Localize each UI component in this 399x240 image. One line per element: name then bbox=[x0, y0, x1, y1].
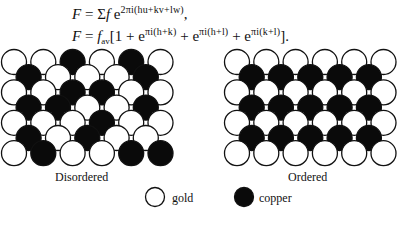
gold-atom bbox=[371, 141, 396, 166]
disordered-label: Disordered bbox=[55, 170, 108, 185]
legend-copper-symbol bbox=[235, 188, 254, 207]
gold-atom bbox=[225, 141, 250, 166]
legend-gold-label: gold bbox=[172, 191, 193, 206]
copper-atom bbox=[31, 141, 56, 166]
gold-atom bbox=[2, 141, 27, 166]
ordered-label: Ordered bbox=[288, 170, 327, 185]
legend-copper-label: copper bbox=[259, 191, 292, 206]
copper-atom bbox=[148, 141, 173, 166]
gold-atom bbox=[60, 141, 85, 166]
gold-atom bbox=[342, 141, 367, 166]
gold-atom bbox=[312, 141, 337, 166]
gold-atom bbox=[254, 141, 279, 166]
gold-atom bbox=[283, 141, 308, 166]
ordered-lattice bbox=[225, 50, 397, 166]
legend-gold-symbol bbox=[146, 188, 165, 207]
gold-atom bbox=[89, 141, 114, 166]
disordered-lattice bbox=[2, 50, 174, 166]
copper-atom bbox=[119, 141, 144, 166]
